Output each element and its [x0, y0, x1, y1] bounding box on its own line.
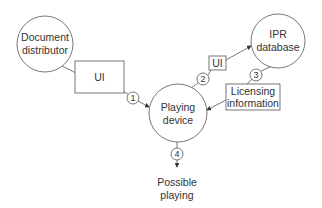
node-label: IPR	[269, 28, 287, 40]
step-number: 4	[174, 149, 179, 159]
node-label: Possible	[157, 176, 197, 188]
step-3-badge: 3	[250, 69, 262, 81]
box-label: UI	[94, 71, 105, 83]
node-playing-device: Playing device	[149, 84, 207, 142]
box-label: information	[227, 97, 279, 109]
step-number: 1	[130, 93, 135, 103]
flow-diagram: Document distributor UI IPR database UI …	[0, 0, 322, 208]
node-label: database	[256, 41, 299, 53]
box-ui-small: UI	[209, 56, 226, 70]
step-2-badge: 2	[197, 73, 209, 85]
node-document-distributor: Document distributor	[17, 16, 73, 72]
node-label: Document	[21, 31, 69, 43]
step-number: 3	[253, 70, 258, 80]
node-possible-playing: Possible playing	[157, 176, 197, 201]
node-ipr-database: IPR database	[251, 14, 305, 68]
box-licensing-information: Licensing information	[226, 84, 280, 110]
arrow-to-ipr	[226, 46, 251, 60]
node-label: playing	[160, 189, 193, 201]
connector-ui-step1	[124, 92, 128, 94]
step-4-badge: 4	[171, 148, 183, 160]
step-1-badge: 1	[127, 92, 139, 104]
step-number: 2	[200, 74, 205, 84]
node-label: Playing	[161, 101, 196, 113]
arrow-licensing-to-device	[207, 100, 226, 110]
connector-step3-licensing	[247, 79, 252, 84]
connector-step2-ui	[208, 70, 211, 75]
node-label: device	[163, 114, 194, 126]
box-label: Licensing	[231, 85, 276, 97]
box-ui-main: UI	[75, 61, 124, 93]
connector-distributor-ui	[62, 66, 76, 73]
box-label: UI	[212, 57, 223, 69]
arrow-to-playing-device	[138, 101, 149, 107]
node-label: distributor	[22, 44, 69, 56]
